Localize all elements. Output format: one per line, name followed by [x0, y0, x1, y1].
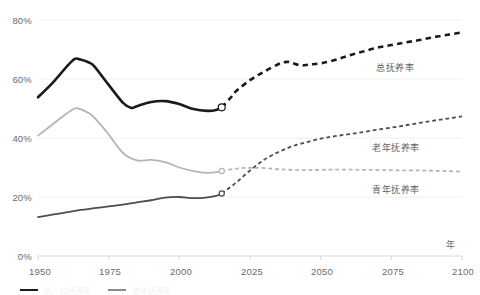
x-axis-title: 年: [446, 238, 455, 251]
footer-legend-swatch-0: [20, 289, 38, 291]
y-tick-label-0: 0%: [2, 251, 32, 262]
footer-legend-label-1: 老年抚养率: [132, 285, 172, 295]
y-tick-label-60: 60%: [2, 74, 32, 85]
footer-legend-label-0: 总人口抚养率: [44, 285, 92, 295]
y-tick-label-80: 80%: [2, 15, 32, 26]
axis-lines-group: [38, 256, 462, 260]
footer-legend: 总人口抚养率 老年抚养率: [0, 283, 480, 295]
dependency-ratio-chart: 80% 60% 40% 20% 0% 1950 1975 2000 2025 2…: [0, 0, 480, 295]
y-tick-label-40: 40%: [2, 133, 32, 144]
y-tick-label-20: 20%: [2, 192, 32, 203]
x-tick-label-2000: 2000: [161, 266, 201, 277]
series-label-total: 总抚养率: [376, 61, 414, 74]
series-line-projected-1: [222, 116, 462, 193]
series-label-elderly: 老年抚养率: [372, 141, 420, 154]
series-label-youth: 青年抚养率: [372, 183, 420, 196]
x-tick-label-2050: 2050: [302, 266, 342, 277]
transition-marker-0: [218, 104, 225, 111]
x-tick-label-2075: 2075: [373, 266, 413, 277]
series-line-projected-2: [222, 168, 462, 172]
series-line-projected-0: [222, 32, 462, 107]
series-line-solid-2: [38, 108, 222, 173]
footer-legend-swatch-1: [108, 289, 126, 291]
x-tick-label-1950: 1950: [20, 266, 60, 277]
x-tick-label-1975: 1975: [90, 266, 130, 277]
transition-marker-2: [219, 168, 224, 173]
x-tick-label-2100: 2100: [443, 266, 480, 277]
transition-markers-group: [218, 104, 225, 196]
transition-marker-1: [219, 191, 224, 196]
x-tick-label-2025: 2025: [232, 266, 272, 277]
series-line-solid-0: [38, 58, 222, 110]
